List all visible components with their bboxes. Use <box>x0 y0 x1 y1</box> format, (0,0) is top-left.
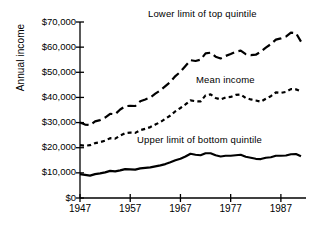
plot-area <box>0 0 323 239</box>
series-line <box>80 33 301 126</box>
series-line <box>80 153 301 175</box>
series-label-mean-income: Mean income <box>196 74 255 85</box>
series-label-bottom-quintile: Upper limit of bottom quintile <box>137 134 262 145</box>
series-label-top-quintile: Lower limit of top quintile <box>148 8 257 19</box>
income-line-chart: Annual income $70,000 $60,000 $50,000 $4… <box>0 0 323 239</box>
series-lines <box>80 33 301 176</box>
